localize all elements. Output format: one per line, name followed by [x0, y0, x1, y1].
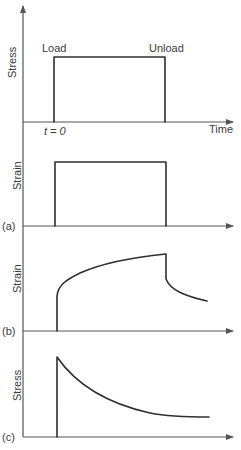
panel-b-strain-label: Strain	[11, 264, 23, 293]
panel-a-tag: (a)	[2, 220, 15, 232]
unload-label: Unload	[149, 42, 184, 54]
stress-axis-label: Stress	[6, 46, 18, 78]
t0-label: t = 0	[44, 125, 67, 137]
panel-c-stress-label: Stress	[11, 369, 23, 401]
panel-c-tag: (c)	[2, 431, 15, 443]
time-axis-label: Time	[209, 123, 233, 135]
panel-b-tag: (b)	[2, 325, 15, 337]
panel-a-strain-label: Strain	[11, 161, 23, 190]
load-label: Load	[42, 42, 66, 54]
panel-b-plot: (b) Strain	[2, 254, 233, 337]
panel-a-plot: (a) Strain	[2, 161, 233, 232]
viscoelastic-response-diagram: Load Unload t = 0 Time Stress (a) Strain…	[0, 0, 241, 450]
panel-c-plot: (c) Stress	[2, 357, 233, 443]
stress-input-plot: Load Unload t = 0 Time Stress	[6, 42, 233, 137]
stress-step-curve	[54, 57, 165, 122]
elastic-strain-curve	[55, 162, 166, 226]
stress-relaxation-curve	[57, 357, 209, 437]
creep-strain-curve	[57, 254, 207, 331]
